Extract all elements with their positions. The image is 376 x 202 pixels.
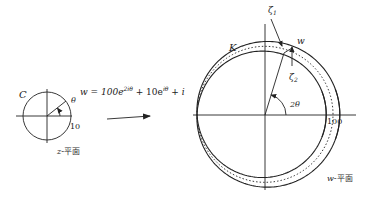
curve-k-outer <box>197 41 340 177</box>
formula-lhs: w = 100e <box>80 87 123 97</box>
w-plane-var: w <box>327 174 334 183</box>
w-plane-suffix: -平面 <box>334 174 353 183</box>
z-radius-label: 10 <box>70 123 80 131</box>
mapping-formula: w = 100e2iθ + 10eiθ + i <box>80 86 185 97</box>
mapping-diagram <box>0 0 376 202</box>
w-offset-vector <box>284 48 292 53</box>
zeta2-subscript: 2 <box>294 76 298 83</box>
w-point-label: w <box>297 37 305 46</box>
w-plane <box>193 19 356 190</box>
formula-rhs: + i <box>168 87 184 97</box>
zeta2-label: ζ2 <box>289 73 298 83</box>
w-plane-label: w-平面 <box>327 168 353 184</box>
z-angle-arc <box>58 108 60 116</box>
w-radius-label: 100 <box>327 118 342 126</box>
z-radius <box>47 101 66 116</box>
w-angle-arc <box>271 95 286 115</box>
zeta1-label: ζ1 <box>268 6 277 16</box>
mapping-arrow <box>107 116 150 119</box>
w-angle-label: 2θ <box>290 101 300 109</box>
z-plane-suffix: -平面 <box>61 147 80 156</box>
curve-k-label: K <box>229 43 236 53</box>
z-plane-label: z-平面 <box>57 141 80 157</box>
z-angle-label: θ <box>71 97 76 105</box>
w-radius-2theta <box>265 53 284 115</box>
curve-c-label: C <box>19 90 27 100</box>
formula-mid: + 10e <box>133 87 163 97</box>
formula-exp1: 2iθ <box>123 85 132 92</box>
zeta1-subscript: 1 <box>273 9 277 16</box>
